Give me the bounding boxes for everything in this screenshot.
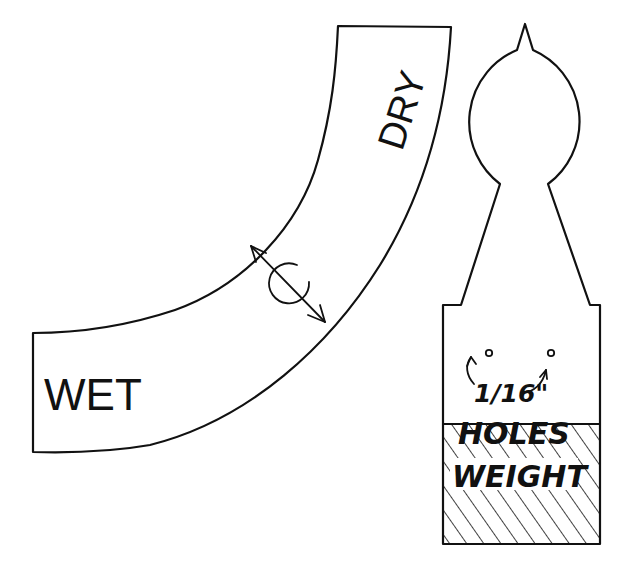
- rotation-icon: [269, 263, 309, 303]
- hygrometer-diagram: WET DRY WEIGHT 1/16" HOLES: [0, 0, 623, 571]
- keyhole-indicator: WEIGHT 1/16" HOLES: [443, 24, 600, 544]
- double-arrow-icon: [251, 246, 325, 322]
- hole-right: [548, 350, 554, 356]
- hole-left: [486, 350, 492, 356]
- arc-scale-band: WET DRY: [33, 26, 451, 452]
- dry-label: DRY: [370, 66, 435, 155]
- wet-label: WET: [44, 370, 142, 419]
- hole-size-label: 1/16": [474, 379, 548, 408]
- holes-label: HOLES: [458, 416, 570, 451]
- weight-label: WEIGHT: [452, 459, 589, 494]
